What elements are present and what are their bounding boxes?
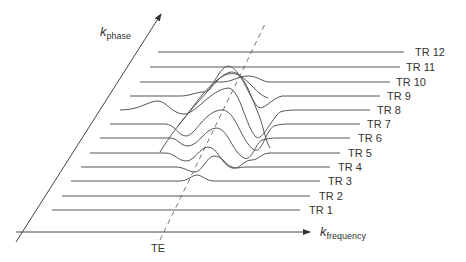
tr-label-10: TR 10 (396, 76, 426, 88)
tr-line-10 (140, 76, 390, 82)
tr-line-3 (71, 175, 320, 181)
tr-label-12: TR 12 (415, 46, 445, 58)
tr-label-7: TR 7 (367, 118, 391, 130)
phase-axis-label: kphase (100, 24, 131, 41)
tr-label-5: TR 5 (348, 147, 372, 159)
te-label: TE (151, 242, 165, 254)
tr-line-6 (100, 128, 350, 159)
te-dashed-line (160, 22, 266, 240)
tr-line-9 (130, 66, 380, 108)
tr-label-6: TR 6 (358, 132, 382, 144)
tr-line-8 (120, 88, 370, 138)
tr-line-4 (81, 156, 330, 172)
tr-line-7 (110, 110, 360, 150)
tr-label-2: TR 2 (319, 190, 343, 202)
peak-curve-b (178, 74, 268, 126)
phase-axis (16, 14, 161, 242)
tr-label-3: TR 3 (328, 175, 352, 187)
frequency-axis-label: kfrequency (320, 224, 367, 241)
k-space-diagram: TR 1 TR 2 TR 3 TR 4 TR 5 TR 6 TR 7 TR 8 … (0, 0, 466, 262)
tr-label-8: TR 8 (377, 104, 401, 116)
tr-label-1: TR 1 (309, 204, 333, 216)
tr-label-11: TR 11 (406, 61, 435, 73)
tr-line-5 (90, 147, 340, 168)
tr-label-4: TR 4 (338, 161, 362, 173)
tr-label-9: TR 9 (387, 90, 411, 102)
